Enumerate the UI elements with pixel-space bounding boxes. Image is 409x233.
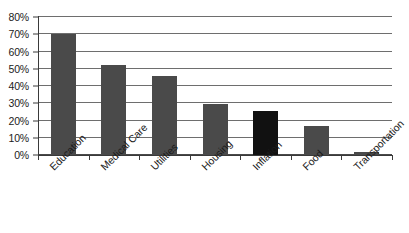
x-axis-label-inflation: Inflation — [250, 139, 284, 173]
x-axis-label-housing: Housing — [199, 137, 234, 172]
x-axis-label-transportation: Transportation — [351, 117, 406, 172]
x-axis-label-education: Education — [47, 132, 88, 173]
x-axis-category-labels: EducationMedical CareUtilitiesHousingInf… — [0, 0, 409, 233]
x-axis-label-utilities: Utilities — [148, 141, 180, 173]
x-axis-label-medical-care: Medical Care — [98, 121, 149, 172]
bar-chart: 0%10%20%30%40%50%60%70%80% EducationMedi… — [0, 0, 409, 233]
x-axis-label-food: Food — [300, 147, 325, 172]
